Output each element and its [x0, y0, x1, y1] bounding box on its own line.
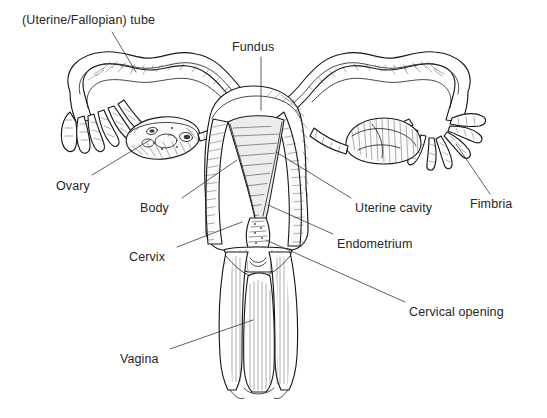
leader-fimbria: [456, 144, 490, 194]
label-uterine-cavity: Uterine cavity: [355, 202, 432, 215]
label-endometrium: Endometrium: [337, 238, 412, 251]
right-ovarian-ligament: [310, 128, 348, 154]
anatomy-illustration: [0, 0, 547, 418]
anatomy-diagram: (Uterine/Fallopian) tube Fundus Ovary Bo…: [0, 0, 547, 418]
label-cervical-opening: Cervical opening: [409, 306, 504, 319]
label-body: Body: [140, 202, 169, 215]
label-ovary: Ovary: [56, 180, 90, 193]
right-ovary: [346, 118, 421, 164]
label-fimbria: Fimbria: [470, 198, 512, 211]
vagina: [219, 252, 297, 399]
label-uterine-fallopian-tube: (Uterine/Fallopian) tube: [22, 14, 155, 27]
label-cervix: Cervix: [129, 251, 165, 264]
label-vagina: Vagina: [120, 353, 159, 366]
label-fundus: Fundus: [232, 41, 274, 54]
